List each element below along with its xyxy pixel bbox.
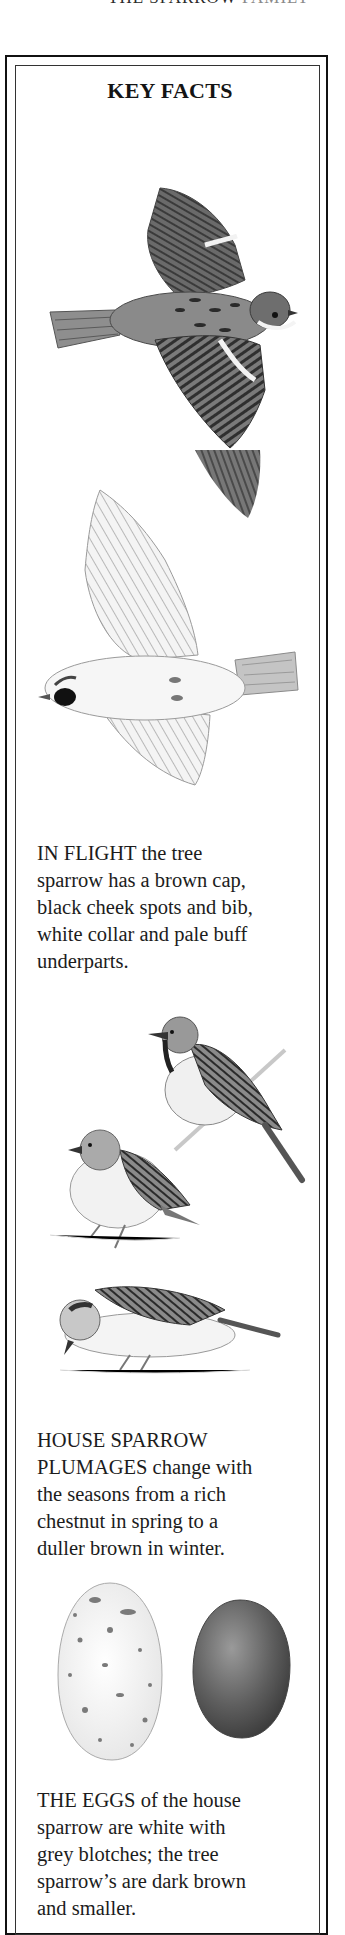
caption-line: IN FLIGHT the tree <box>37 840 312 867</box>
caption-in-flight: IN FLIGHT the tree sparrow has a brown c… <box>37 840 312 975</box>
caption-line: sparrow are white with <box>37 1814 312 1841</box>
caption-line: HOUSE SPARROW <box>37 1427 312 1454</box>
tree-sparrow-flight-underside-illustration <box>30 450 320 790</box>
tree-sparrow-egg <box>193 1600 290 1738</box>
caption-line: and smaller. <box>37 1895 312 1922</box>
panel-title: KEY FACTS <box>0 78 340 104</box>
sparrow-eggs-illustration <box>40 1580 320 1770</box>
caption-line: duller brown in winter. <box>37 1535 312 1562</box>
caption-line: grey blotches; the tree <box>37 1841 312 1868</box>
caption-line: sparrow’s are dark brown <box>37 1868 312 1895</box>
caption-line: the seasons from a rich <box>37 1481 312 1508</box>
caption-line: PLUMAGES change with <box>37 1454 312 1481</box>
tree-sparrow-flight-upperside-illustration <box>40 160 300 450</box>
house-sparrow-egg <box>58 1583 162 1760</box>
caption-line: THE EGGS of the house <box>37 1787 312 1814</box>
caption-line: sparrow has a brown cap, <box>37 867 312 894</box>
caption-house-sparrow-plumages: HOUSE SPARROW PLUMAGES change with the s… <box>37 1427 312 1562</box>
caption-line: black cheek spots and bib, <box>37 894 312 921</box>
caption-line: underparts. <box>37 948 312 975</box>
caption-the-eggs: THE EGGS of the house sparrow are white … <box>37 1787 312 1922</box>
caption-line: chestnut in spring to a <box>37 1508 312 1535</box>
house-sparrow-plumages-illustration <box>40 1010 320 1380</box>
running-head: THE SPARROW FAMILY <box>108 0 310 8</box>
caption-line: white collar and pale buff <box>37 921 312 948</box>
running-head-text: THE SPARROW <box>108 0 237 7</box>
running-head-text-light: FAMILY <box>242 0 310 7</box>
